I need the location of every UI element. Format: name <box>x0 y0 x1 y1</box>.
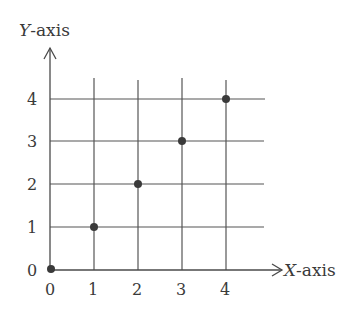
x-axis-title: X-axis <box>282 260 336 280</box>
x-tick-labels: 0 1 2 3 4 <box>45 280 230 299</box>
x-tick-2: 2 <box>132 280 142 299</box>
axes <box>44 48 282 276</box>
x-tick-1: 1 <box>88 280 98 299</box>
point-1-1 <box>90 223 98 231</box>
point-4-4 <box>222 95 230 103</box>
point-3-3 <box>178 137 186 145</box>
x-tick-4: 4 <box>220 280 230 299</box>
x-axis-var: X <box>282 260 297 280</box>
x-tick-3: 3 <box>176 280 186 299</box>
y-axis-title: Y-axis <box>19 20 70 40</box>
x-tick-0: 0 <box>45 280 55 299</box>
y-tick-3: 3 <box>27 132 37 151</box>
y-tick-1: 1 <box>27 218 37 237</box>
y-tick-0: 0 <box>27 261 37 280</box>
chart: 0 1 2 3 4 0 1 2 3 4 Y-axis X-axis <box>0 0 362 313</box>
x-axis-suffix: -axis <box>296 260 336 280</box>
y-tick-2: 2 <box>27 175 37 194</box>
y-axis-suffix: -axis <box>30 20 70 40</box>
y-tick-4: 4 <box>27 90 37 109</box>
point-0-0 <box>47 265 55 273</box>
grid <box>50 78 265 270</box>
y-tick-labels: 0 1 2 3 4 <box>27 90 37 280</box>
point-2-2 <box>134 180 142 188</box>
